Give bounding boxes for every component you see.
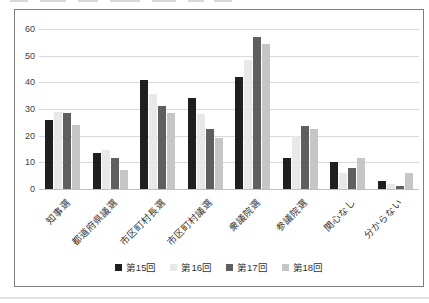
bar-第16回-参議院選	[292, 136, 300, 189]
bar-第15回-参議院選	[283, 158, 291, 189]
gridline	[39, 109, 419, 110]
legend-label: 第15回	[126, 260, 157, 274]
bar-第17回-分からない	[396, 186, 404, 189]
y-axis-tick-label: 50	[15, 52, 35, 61]
clipped-text-remnant	[110, 0, 140, 2]
legend-label: 第18回	[293, 260, 324, 274]
bar-第15回-市区町村議選	[188, 98, 196, 189]
legend-label: 第16回	[181, 260, 212, 274]
clipped-text-remnant	[10, 0, 28, 2]
bar-第18回-関心なし	[357, 158, 365, 189]
bar-第18回-都道府県議選	[120, 170, 128, 189]
gridline	[39, 82, 419, 83]
legend-item-第18回: 第18回	[282, 260, 324, 274]
legend-item-第16回: 第16回	[170, 260, 212, 274]
screenshot-root: 0102030405060知事選都道府県議選市区町村長選市区町村議選衆議院選参議…	[0, 0, 429, 303]
clipped-text-remnant	[40, 0, 66, 2]
y-axis-tick-label: 30	[15, 105, 35, 114]
x-axis-line	[39, 189, 419, 190]
chart-legend: 第15回第16回第17回第18回	[15, 260, 423, 274]
bar-第15回-関心なし	[330, 162, 338, 189]
bar-第15回-衆議院選	[235, 77, 243, 189]
gridline	[39, 56, 419, 57]
bar-第17回-市区町村議選	[206, 129, 214, 189]
bar-第18回-知事選	[72, 125, 80, 189]
y-axis-tick-label: 0	[15, 185, 35, 194]
bar-第17回-衆議院選	[253, 37, 261, 189]
y-axis-tick-label: 40	[15, 78, 35, 87]
bar-第15回-知事選	[45, 120, 53, 189]
page-divider-line	[0, 297, 429, 299]
y-axis-tick-label: 10	[15, 158, 35, 167]
bar-第16回-知事選	[54, 112, 62, 189]
bar-第16回-分からない	[387, 184, 395, 189]
bar-第16回-市区町村議選	[197, 114, 205, 189]
bar-第18回-市区町村長選	[167, 113, 175, 189]
clipped-text-remnant	[188, 0, 204, 2]
bar-第18回-衆議院選	[262, 44, 270, 189]
bar-第17回-関心なし	[348, 168, 356, 189]
legend-swatch-icon	[282, 264, 289, 271]
legend-item-第17回: 第17回	[226, 260, 268, 274]
clipped-text-remnant	[214, 0, 232, 2]
bar-第16回-市区町村長選	[149, 94, 157, 189]
legend-swatch-icon	[226, 264, 233, 271]
bar-第15回-分からない	[378, 181, 386, 189]
legend-item-第15回: 第15回	[115, 260, 157, 274]
bar-第16回-衆議院選	[244, 60, 252, 189]
bar-chart: 0102030405060知事選都道府県議選市区町村長選市区町村議選衆議院選参議…	[14, 9, 424, 287]
gridline	[39, 136, 419, 137]
gridline	[39, 29, 419, 30]
bar-第18回-分からない	[405, 173, 413, 189]
bar-第17回-市区町村長選	[158, 106, 166, 189]
legend-swatch-icon	[170, 264, 177, 271]
bar-第17回-参議院選	[301, 126, 309, 189]
bar-第15回-都道府県議選	[93, 153, 101, 189]
clipped-text-remnant	[152, 0, 176, 2]
bar-第17回-知事選	[63, 113, 71, 189]
clipped-text-remnant	[78, 0, 98, 2]
y-axis-tick-label: 20	[15, 132, 35, 141]
legend-label: 第17回	[237, 260, 268, 274]
bar-第16回-関心なし	[339, 173, 347, 189]
legend-swatch-icon	[115, 264, 122, 271]
plot-area: 0102030405060知事選都道府県議選市区町村長選市区町村議選衆議院選参議…	[15, 10, 423, 286]
bar-第16回-都道府県議選	[102, 150, 110, 189]
y-axis-tick-label: 60	[15, 25, 35, 34]
bar-第18回-市区町村議選	[215, 138, 223, 189]
bar-第15回-市区町村長選	[140, 80, 148, 189]
bar-第17回-都道府県議選	[111, 158, 119, 189]
bar-第18回-参議院選	[310, 129, 318, 189]
